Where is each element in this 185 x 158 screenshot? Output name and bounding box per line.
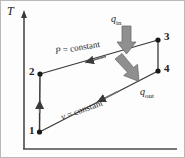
q-out-sub: out [145, 92, 154, 100]
state-label-3: 3 [164, 31, 170, 42]
state-point-1 [37, 129, 42, 134]
q-out-block-arrow [115, 54, 139, 82]
state-label-2: 2 [29, 66, 35, 77]
state-point-2 [37, 71, 42, 76]
q-in-sub: in [116, 19, 121, 27]
heat-label-q-out: qout [140, 87, 154, 100]
heat-arrow-group [115, 26, 139, 82]
y-axis-label: T [7, 5, 14, 17]
axis-group [21, 10, 177, 149]
y-axis-arrowhead [21, 10, 27, 18]
thermodynamic-cycle-figure: T 1 2 3 4 P = constant v = constant qin … [0, 0, 185, 158]
state-point-4 [155, 68, 160, 73]
state-label-1: 1 [29, 125, 35, 136]
heat-label-q-in: qin [111, 14, 121, 27]
q-in-block-arrow [117, 26, 136, 54]
state-label-4: 4 [164, 63, 170, 74]
state-point-3 [155, 37, 160, 42]
